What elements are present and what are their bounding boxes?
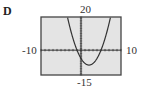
graph-window <box>0 0 147 92</box>
